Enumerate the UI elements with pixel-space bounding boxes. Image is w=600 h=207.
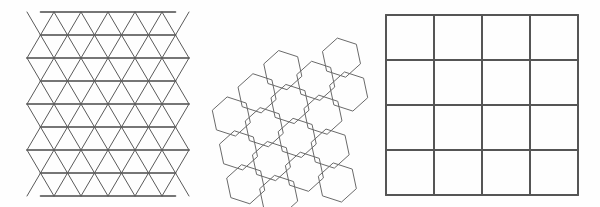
- triangular-edge: [27, 173, 41, 196]
- triangular-edge: [95, 104, 109, 127]
- hexagon-cell: [264, 51, 302, 90]
- triangular-edge: [41, 81, 55, 104]
- triangular-edge: [27, 150, 41, 173]
- triangular-edge: [68, 173, 82, 196]
- triangular-edge: [68, 81, 82, 104]
- hexagon-cell: [278, 118, 316, 157]
- triangular-edge: [95, 81, 109, 104]
- triangular-edge: [122, 173, 136, 196]
- tiling-figure: [0, 0, 600, 207]
- triangular-edge: [135, 58, 149, 81]
- triangular-edge: [162, 58, 176, 81]
- triangular-edge: [95, 35, 109, 58]
- triangular-edge: [41, 58, 55, 81]
- triangular-edge: [122, 81, 136, 104]
- triangular-edge: [108, 58, 122, 81]
- triangular-edge: [68, 35, 82, 58]
- triangular-edge: [27, 81, 41, 104]
- triangular-edge: [176, 104, 190, 127]
- triangular-edge: [149, 35, 163, 58]
- triangular-edge: [108, 81, 122, 104]
- triangular-edge: [149, 150, 163, 173]
- triangular-edge: [54, 173, 68, 196]
- triangular-edge: [54, 150, 68, 173]
- triangular-edge: [122, 12, 136, 35]
- triangular-edge: [176, 173, 190, 196]
- triangular-edge: [135, 127, 149, 150]
- triangular-edge: [54, 58, 68, 81]
- triangular-edge: [68, 127, 82, 150]
- triangular-edge: [81, 58, 95, 81]
- triangular-edge: [108, 173, 122, 196]
- triangular-edge: [54, 104, 68, 127]
- triangular-edge: [68, 104, 82, 127]
- triangular-edge: [81, 150, 95, 173]
- triangular-edge: [135, 173, 149, 196]
- triangular-edge: [122, 35, 136, 58]
- hexagon-cell: [322, 38, 360, 77]
- triangular-edge: [135, 150, 149, 173]
- hexagon-cell: [260, 175, 298, 207]
- triangular-edge: [54, 12, 68, 35]
- triangular-edge: [81, 12, 95, 35]
- triangular-edge: [54, 127, 68, 150]
- triangular-edge: [162, 150, 176, 173]
- triangular-edge: [162, 12, 176, 35]
- triangular-edge: [54, 35, 68, 58]
- triangular-edge: [41, 173, 55, 196]
- triangular-edge: [81, 173, 95, 196]
- hexagon-cell: [212, 97, 250, 136]
- triangular-edge: [149, 12, 163, 35]
- triangular-edge: [27, 127, 41, 150]
- triangular-edge: [162, 173, 176, 196]
- triangular-edge: [81, 81, 95, 104]
- triangular-edge: [95, 150, 109, 173]
- triangular-edge: [176, 12, 190, 35]
- triangular-edge: [162, 127, 176, 150]
- triangular-edge: [68, 12, 82, 35]
- triangular-edge: [41, 35, 55, 58]
- hexagon-cell: [297, 61, 335, 100]
- triangular-edge: [95, 127, 109, 150]
- triangular-edge: [108, 35, 122, 58]
- square-tiling-group: [386, 15, 578, 195]
- triangular-edge: [135, 104, 149, 127]
- triangular-edge: [149, 127, 163, 150]
- triangular-edge: [135, 81, 149, 104]
- hexagon-cell: [252, 142, 290, 181]
- triangular-edge: [162, 81, 176, 104]
- triangular-edge: [54, 81, 68, 104]
- hexagon-cell: [219, 131, 257, 170]
- triangular-edge: [27, 35, 41, 58]
- triangular-edge: [81, 35, 95, 58]
- triangular-edge: [41, 150, 55, 173]
- hexagon-cell: [285, 152, 323, 191]
- triangular-edge: [95, 58, 109, 81]
- triangular-tiling-group: [27, 12, 189, 196]
- triangular-edge: [149, 81, 163, 104]
- triangular-edge: [149, 58, 163, 81]
- triangular-edge: [122, 104, 136, 127]
- hexagonal-tiling-group: [212, 38, 367, 207]
- triangular-edge: [162, 35, 176, 58]
- hexagon-cell: [238, 74, 276, 113]
- triangular-edge: [122, 127, 136, 150]
- triangular-edge: [108, 104, 122, 127]
- triangular-edge: [122, 150, 136, 173]
- triangular-edge: [27, 104, 41, 127]
- hexagon-cell: [318, 163, 356, 202]
- triangular-edge: [135, 12, 149, 35]
- triangular-edge: [108, 12, 122, 35]
- tiling-canvas: [0, 0, 600, 207]
- hexagon-cell: [330, 72, 368, 111]
- hexagon-cell: [311, 129, 349, 168]
- triangular-edge: [95, 12, 109, 35]
- triangular-edge: [176, 81, 190, 104]
- triangular-edge: [108, 127, 122, 150]
- triangular-edge: [176, 127, 190, 150]
- triangular-edge: [81, 127, 95, 150]
- triangular-edge: [41, 12, 55, 35]
- triangular-edge: [176, 35, 190, 58]
- triangular-edge: [95, 173, 109, 196]
- triangular-edge: [27, 58, 41, 81]
